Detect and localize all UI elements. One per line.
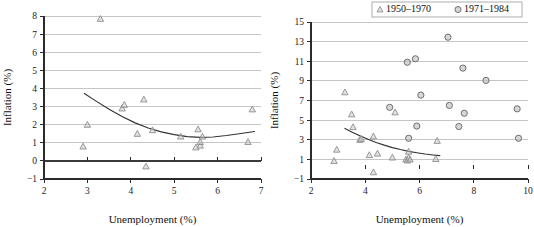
x-tick-label: 4	[363, 186, 368, 196]
chart-panel-right: −113579111315246810Unemployment (%)Infla…	[267, 0, 534, 227]
legend-label: 1971–1984	[464, 3, 509, 14]
data-point-circle	[514, 106, 520, 112]
data-point-triangle	[197, 139, 203, 145]
x-tick-label: 4	[128, 186, 133, 196]
y-tick-label: 4	[32, 84, 37, 94]
y-tick-label: 15	[295, 17, 305, 27]
chart-svg-right: −113579111315246810Unemployment (%)Infla…	[267, 0, 534, 227]
data-point-triangle	[370, 169, 376, 175]
x-axis-title: Unemployment (%)	[109, 213, 197, 226]
y-tick-label: 3	[32, 102, 37, 112]
x-tick-label: 10	[523, 186, 533, 196]
data-point-triangle	[389, 154, 395, 160]
trend-curve	[84, 94, 254, 138]
data-point-circle	[461, 110, 467, 116]
data-point-triangle	[342, 89, 348, 95]
y-tick-label: 9	[299, 76, 304, 86]
data-point-triangle	[141, 96, 147, 102]
x-axis-ticks: 234567	[42, 157, 264, 196]
data-point-circle	[418, 92, 424, 98]
y-tick-label: 6	[32, 48, 37, 58]
y-tick-label: 11	[295, 57, 304, 67]
y-tick-label: 7	[299, 96, 304, 106]
data-point-triangle	[350, 124, 356, 130]
y-tick-label: 13	[295, 37, 305, 47]
data-point-triangle	[366, 152, 372, 158]
x-tick-label: 2	[309, 186, 314, 196]
chart-svg-left: −1012345678234567Unemployment (%)Inflati…	[0, 0, 267, 227]
legend-label: 1950–1970	[386, 3, 431, 14]
data-point-triangle	[370, 133, 376, 139]
data-point-triangle	[334, 146, 340, 152]
scatter-plot-figure: −1012345678234567Unemployment (%)Inflati…	[0, 0, 534, 227]
data-point-triangle	[80, 143, 86, 149]
data-point-circle	[412, 56, 418, 62]
data-series	[331, 89, 440, 175]
x-tick-label: 7	[259, 186, 264, 196]
x-tick-label: 6	[417, 186, 422, 196]
data-point-circle	[460, 65, 466, 71]
data-point-triangle	[143, 163, 149, 169]
legend: 1950–19701971–1984	[372, 2, 522, 17]
data-series	[387, 34, 522, 141]
data-point-circle	[445, 34, 451, 40]
data-point-triangle	[433, 156, 439, 162]
y-axis-title: Inflation (%)	[268, 72, 281, 129]
y-tick-label: 5	[299, 116, 304, 126]
y-tick-label: −1	[294, 174, 304, 184]
gridlines	[44, 16, 261, 161]
y-tick-label: 3	[299, 135, 304, 145]
x-tick-label: 6	[215, 186, 220, 196]
data-point-triangle	[134, 131, 140, 137]
x-tick-label: 2	[42, 186, 47, 196]
data-point-triangle	[348, 111, 354, 117]
data-point-triangle	[331, 158, 337, 164]
y-axis-title: Inflation (%)	[1, 69, 14, 126]
data-point-circle	[515, 135, 521, 141]
y-tick-label: 2	[32, 120, 37, 130]
chart-panel-left: −1012345678234567Unemployment (%)Inflati…	[0, 0, 267, 227]
y-tick-label: 1	[32, 138, 37, 148]
x-axis-title: Unemployment (%)	[376, 213, 464, 226]
y-tick-label: 8	[32, 11, 37, 21]
x-tick-label: 5	[172, 186, 177, 196]
data-point-circle	[406, 135, 412, 141]
data-point-triangle	[434, 138, 440, 144]
data-point-circle	[414, 123, 420, 129]
data-point-circle	[404, 59, 410, 65]
data-point-triangle	[199, 133, 205, 139]
data-point-circle	[483, 77, 489, 83]
y-axis-ticks: −1012345678	[27, 11, 44, 184]
data-point-triangle	[392, 109, 398, 115]
data-point-triangle	[245, 139, 251, 145]
y-tick-label: −1	[27, 174, 37, 184]
data-point-triangle	[374, 150, 380, 156]
data-point-circle	[387, 104, 393, 110]
data-point-circle	[446, 102, 452, 108]
y-tick-label: 0	[32, 156, 37, 166]
legend-marker-circle	[455, 7, 461, 13]
data-series	[80, 16, 256, 169]
y-axis-ticks: −113579111315	[294, 17, 311, 184]
y-tick-label: 7	[32, 30, 37, 40]
x-axis-ticks: 246810	[309, 165, 533, 196]
data-point-triangle	[195, 126, 201, 132]
y-tick-label: 5	[32, 66, 37, 76]
data-point-circle	[456, 123, 462, 129]
x-tick-label: 8	[471, 186, 476, 196]
y-tick-label: 1	[299, 155, 304, 165]
x-tick-label: 3	[85, 186, 90, 196]
